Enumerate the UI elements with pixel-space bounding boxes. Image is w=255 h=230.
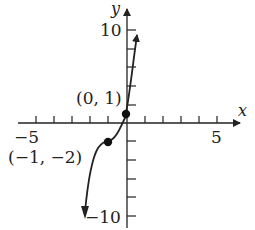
- x-min-label: −5: [14, 127, 39, 147]
- point-neg1-neg2: [104, 138, 112, 146]
- y-max-label: 10: [100, 20, 122, 40]
- y-axis-label: y: [110, 0, 121, 18]
- x-axis-label: x: [238, 101, 247, 120]
- point-label-0-1: (0, 1): [76, 88, 122, 108]
- point-0-1: [122, 110, 130, 118]
- x-max-label: 5: [211, 127, 222, 147]
- point-label-neg1-neg2: (−1, −2): [8, 147, 82, 167]
- y-min-label: −10: [85, 207, 121, 227]
- function-graph: y x 10 −10 −5 5 (0, 1) (−1, −2): [0, 0, 255, 230]
